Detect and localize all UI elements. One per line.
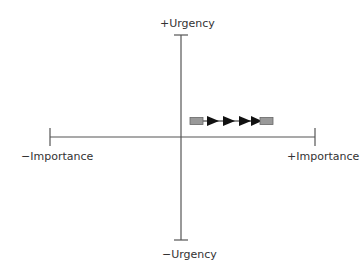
end-box (260, 118, 273, 125)
horizontal-axis (50, 128, 315, 146)
bottom-axis-label: −Urgency (162, 249, 217, 260)
left-axis-label: −Importance (21, 151, 93, 162)
top-axis-label: +Urgency (160, 18, 215, 29)
arrowhead-2 (223, 116, 235, 126)
arrowhead-3 (239, 116, 251, 126)
arrowhead-1 (207, 116, 219, 126)
axes-canvas (0, 0, 362, 273)
start-box (190, 118, 203, 125)
right-axis-label: +Importance (287, 151, 359, 162)
progress-arrow (190, 116, 273, 126)
